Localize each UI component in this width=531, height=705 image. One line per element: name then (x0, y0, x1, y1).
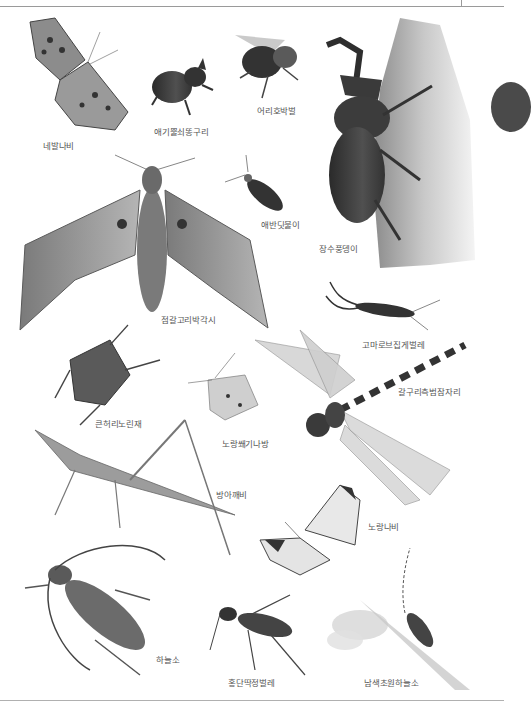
label-dragonfly: 갈구리측범잠자리 (398, 385, 460, 397)
label-earwig: 고마로브집게벌레 (362, 338, 424, 350)
white-butterfly-icon (260, 485, 360, 575)
longhorn-beetle-icon (25, 546, 165, 675)
label-bumblebee: 어리호박벌 (257, 104, 296, 116)
ground-beetle-icon (210, 595, 305, 675)
stink-bug-icon (55, 325, 160, 425)
label-tiger-moth: 노랑쐐기나방 (222, 437, 269, 449)
label-firefly: 애반딧불이 (261, 218, 300, 230)
tree-bark-icon (372, 18, 475, 268)
label-ground-beetle: 홍단딱정벌레 (228, 676, 275, 688)
firefly-icon (225, 155, 288, 216)
blue-longhorn-icon (327, 548, 470, 690)
butterfly-comma-icon (30, 18, 128, 130)
label-white-butterfly: 노랑나비 (368, 520, 399, 532)
label-stink-bug: 큰허리노린재 (95, 417, 142, 429)
bumblebee-icon (235, 35, 298, 98)
dung-beetle-icon (152, 58, 213, 115)
label-hawk-moth: 점갈고리박각시 (161, 313, 216, 325)
earwig-icon (326, 282, 440, 330)
label-rhinoceros-beetle: 장수풍뎅이 (319, 242, 358, 254)
bottom-rule (0, 700, 504, 701)
label-dung-beetle: 애기뿔쇠똥구리 (154, 125, 209, 137)
tiger-moth-icon (188, 353, 258, 420)
label-blue-longhorn: 남색초원하늘소 (364, 676, 419, 688)
label-butterfly-comma: 네발나비 (43, 139, 74, 151)
label-longhorn-beetle: 하늘소 (156, 653, 179, 665)
dragonfly-icon (255, 330, 465, 505)
label-grasshopper: 방아깨비 (216, 488, 247, 500)
grasshopper-icon (35, 420, 235, 555)
hawk-moth-icon (20, 155, 268, 330)
